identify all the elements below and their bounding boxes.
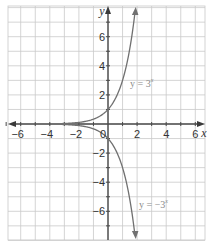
y-tick-label: −6 <box>92 205 105 217</box>
y-axis-label: y <box>98 4 105 18</box>
y-tick-label: 2 <box>99 89 105 101</box>
y-tick-label: −2 <box>92 147 105 159</box>
x-tick-label: −6 <box>11 128 24 140</box>
x-tick-label: 4 <box>163 128 169 140</box>
labels: −6−4−20246−6−4−2246xyy = 3xy = −3x <box>11 4 207 217</box>
x-tick-label: 6 <box>192 128 198 140</box>
x-tick-label: −2 <box>70 128 83 140</box>
y-tick-label: 6 <box>99 31 105 43</box>
y-tick-label: 4 <box>99 60 105 72</box>
x-tick-label: 2 <box>134 128 140 140</box>
x-axis-label: x <box>200 126 207 140</box>
grid-border <box>8 6 205 240</box>
equation-label-y-equals-3-to-x: y = 3x <box>130 77 154 89</box>
exponential-graph: −6−4−20246−6−4−2246xyy = 3xy = −3x <box>0 0 209 243</box>
x-tick-label: 0 <box>100 128 106 140</box>
grid <box>8 6 205 240</box>
axes <box>6 6 205 240</box>
x-axis-arrow-left-icon <box>8 121 16 127</box>
equation-label-y-equals-neg-3-to-x: y = −3x <box>139 198 168 210</box>
y-tick-label: −4 <box>92 176 105 188</box>
x-tick-label: −4 <box>41 128 54 140</box>
